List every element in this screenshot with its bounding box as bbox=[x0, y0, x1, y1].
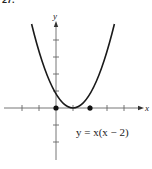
parabola-chart: 27. x y y = x(x − 2) bbox=[0, 0, 152, 169]
x-axis-label: x bbox=[144, 103, 149, 113]
x-axis-arrow-icon bbox=[138, 106, 144, 110]
y-axis: y bbox=[52, 11, 59, 160]
equation-label: y = x(x − 2) bbox=[76, 126, 129, 139]
figure-number: 27. bbox=[2, 0, 15, 5]
y-axis-label: y bbox=[52, 11, 57, 21]
y-axis-arrow-icon bbox=[54, 21, 58, 27]
intercept-point-x2 bbox=[87, 105, 92, 110]
intercept-point-origin bbox=[53, 105, 58, 110]
parabola-curve bbox=[32, 24, 115, 108]
